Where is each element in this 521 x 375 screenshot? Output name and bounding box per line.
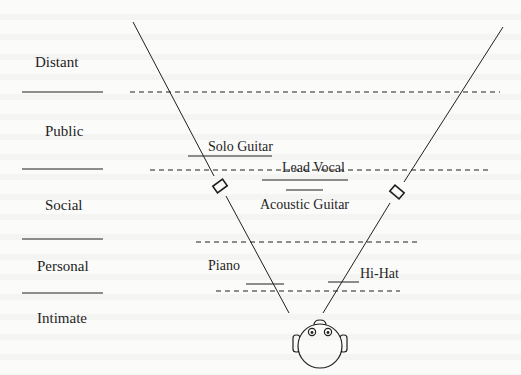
zone-label-intimate: Intimate — [37, 310, 87, 326]
left-pupil-icon — [311, 331, 314, 334]
instrument-label-solo-guitar: Solo Guitar — [208, 139, 273, 154]
right-pupil-icon — [327, 331, 330, 334]
head-outline-icon — [298, 324, 342, 368]
zone-label-personal: Personal — [37, 258, 89, 274]
zone-labels: Distant Public Social Personal Intimate — [35, 54, 89, 326]
right-boundary-lower — [323, 203, 390, 313]
left-speaker-icon — [213, 179, 227, 193]
soundstage-diagram: Distant Public Social Personal Intimate — [0, 0, 521, 375]
instrument-label-hi-hat: Hi-Hat — [360, 266, 399, 281]
instrument-labels: Solo Guitar Lead Vocal Acoustic Guitar P… — [208, 139, 399, 281]
left-boundary-upper — [133, 22, 214, 176]
instrument-label-acoustic-guitar: Acoustic Guitar — [260, 197, 349, 212]
right-boundary-upper — [404, 27, 503, 182]
zone-label-distant: Distant — [35, 54, 79, 70]
instrument-label-lead-vocal: Lead Vocal — [282, 160, 345, 175]
instrument-label-piano: Piano — [208, 258, 240, 273]
zone-label-public: Public — [45, 123, 84, 139]
left-boundary-lower — [226, 196, 289, 313]
right-speaker-icon — [390, 185, 404, 199]
diagram-canvas: Distant Public Social Personal Intimate — [0, 0, 521, 375]
zone-label-social: Social — [45, 197, 83, 213]
listener-head-icon — [293, 320, 347, 368]
